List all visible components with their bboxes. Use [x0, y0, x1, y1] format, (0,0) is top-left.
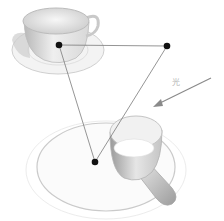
- milk-pan-on-plate: [26, 116, 186, 219]
- plate-point: [92, 159, 99, 166]
- diagram-canvas: [0, 0, 224, 221]
- teacup-on-saucer: [12, 8, 104, 74]
- cup-point: [56, 42, 63, 49]
- light-arrow-shaft: [158, 78, 211, 104]
- cup-rim: [23, 8, 89, 34]
- light-arrowhead-icon: [153, 99, 163, 107]
- pan-milk: [114, 139, 154, 157]
- light-label: 光: [172, 76, 180, 87]
- top-right-point: [164, 43, 171, 50]
- light-arrow: [153, 78, 211, 107]
